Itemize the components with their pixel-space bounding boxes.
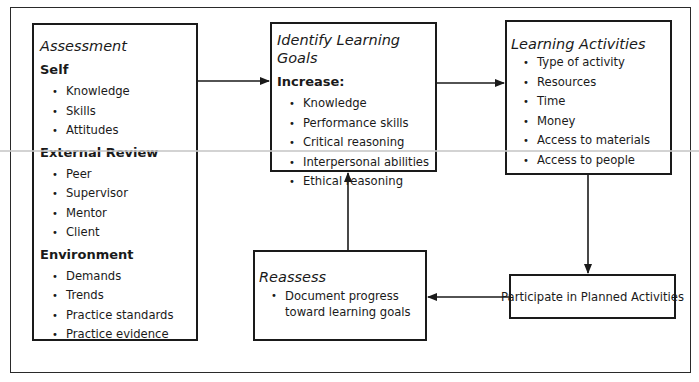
list-item: Performance skills: [277, 114, 435, 134]
list-item: Resources: [511, 73, 670, 93]
list-item: Knowledge: [40, 82, 196, 102]
learning-goals-title: Identify Learning Goals: [277, 31, 435, 67]
list-item: Knowledge: [277, 94, 435, 114]
list-item: Access to materials: [511, 131, 670, 151]
list-item: Supervisor: [40, 184, 196, 204]
learning-activities-list: Type of activity Resources Time Money Ac…: [511, 53, 670, 170]
list-item: Attitudes: [40, 121, 196, 141]
scan-artifact-line: [0, 150, 699, 152]
list-item: Money: [511, 112, 670, 132]
list-item: Interpersonal abilities: [277, 153, 435, 173]
environment-list: Demands Trends Practice standards Practi…: [40, 267, 196, 345]
reassess-title: Reassess: [259, 268, 425, 286]
list-item: Practice evidence: [40, 325, 196, 345]
external-review-list: Peer Supervisor Mentor Client: [40, 165, 196, 243]
reassess-list: Document progress toward learning goals: [259, 288, 425, 320]
list-item: Peer: [40, 165, 196, 185]
participate-box: Participate in Planned Activities: [509, 274, 676, 319]
list-item: Type of activity: [511, 53, 670, 73]
self-list: Knowledge Skills Attitudes: [40, 82, 196, 141]
list-item: Ethical reasoning: [277, 172, 435, 192]
section-heading-self: Self: [40, 61, 196, 79]
list-item: Client: [40, 223, 196, 243]
increase-heading: Increase:: [277, 73, 435, 91]
reassess-box: Reassess Document progress toward learni…: [253, 250, 427, 341]
section-heading-external-review: External Review: [40, 144, 196, 162]
learning-goals-list: Knowledge Performance skills Critical re…: [277, 94, 435, 192]
list-item: Demands: [40, 267, 196, 287]
list-item: Skills: [40, 102, 196, 122]
section-heading-environment: Environment: [40, 246, 196, 264]
participate-label: Participate in Planned Activities: [501, 290, 684, 304]
learning-activities-title: Learning Activities: [511, 35, 670, 53]
list-item: Document progress toward learning goals: [259, 288, 433, 320]
list-item: Time: [511, 92, 670, 112]
list-item: Practice standards: [40, 306, 196, 326]
assessment-title: Assessment: [40, 37, 196, 55]
list-item: Access to people: [511, 151, 670, 171]
list-item: Trends: [40, 286, 196, 306]
learning-activities-box: Learning Activities Type of activity Res…: [505, 20, 672, 175]
list-item: Mentor: [40, 204, 196, 224]
assessment-box: Assessment Self Knowledge Skills Attitud…: [32, 23, 198, 341]
